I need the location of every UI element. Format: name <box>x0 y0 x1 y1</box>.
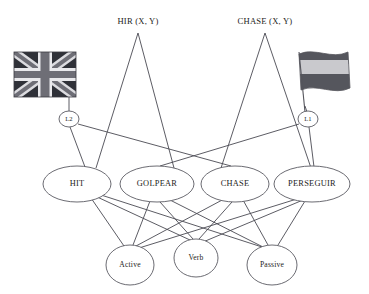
node-golpear-label: GOLPEAR <box>137 179 178 188</box>
union-jack-flag <box>14 52 76 97</box>
node-verb[interactable]: Verb <box>174 239 218 277</box>
node-hit-label: HIT <box>70 179 85 188</box>
node-l2-label: L2 <box>65 115 72 122</box>
node-perseguir[interactable]: PERSEGUIR <box>274 166 350 202</box>
node-golpear[interactable]: GOLPEAR <box>120 166 194 202</box>
concept-label-hir: HIR (X, Y) <box>117 16 158 26</box>
flag-to-language-edges <box>69 97 307 112</box>
node-active-label: Active <box>119 260 141 269</box>
concept-to-lexical-edges <box>96 33 311 168</box>
language-to-lexical-edges <box>70 124 314 167</box>
node-chase[interactable]: CHASE <box>201 166 269 202</box>
edge-hir-hit <box>96 33 138 168</box>
edge-chase-concept-chase <box>221 33 265 168</box>
edge-hir-golpear <box>138 33 174 168</box>
node-l1[interactable]: L1 <box>298 111 318 127</box>
edge-l1-perseguir <box>309 127 314 167</box>
node-active[interactable]: Active <box>106 245 154 285</box>
node-passive[interactable]: Passive <box>247 245 297 285</box>
edge-l2-chase <box>78 124 231 166</box>
edge-chase-passive <box>243 200 268 245</box>
node-passive-label: Passive <box>260 260 285 269</box>
language-nodes: L2 L1 <box>59 111 318 127</box>
node-l1-label: L1 <box>304 115 311 122</box>
node-chase-label: CHASE <box>221 179 250 188</box>
node-verb-label: Verb <box>188 253 203 262</box>
edge-hit-active <box>91 198 124 246</box>
edge-perseguir-passive <box>278 201 305 245</box>
edge-perseguir-verb <box>203 200 303 242</box>
feature-nodes: Active Verb Passive <box>106 239 297 285</box>
spanish-flag <box>296 46 356 112</box>
lexical-network-diagram: HIR (X, Y) CHASE (X, Y) L2 L1 HIT GOLPEA… <box>0 0 369 294</box>
edge-l2-hit <box>70 127 85 167</box>
node-l2[interactable]: L2 <box>59 111 79 127</box>
concept-label-chase: CHASE (X, Y) <box>238 16 293 26</box>
lexical-nodes: HIT GOLPEAR CHASE PERSEGUIR <box>43 166 350 202</box>
edge-l1-golpear <box>160 124 299 166</box>
node-perseguir-label: PERSEGUIR <box>288 179 336 188</box>
concept-labels: HIR (X, Y) CHASE (X, Y) <box>117 16 292 26</box>
node-hit[interactable]: HIT <box>43 166 111 202</box>
